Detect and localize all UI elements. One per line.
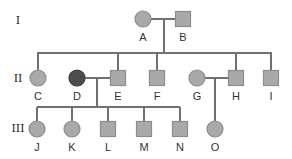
individual-label: I: [269, 90, 272, 102]
individual-label: E: [114, 90, 121, 102]
individual-label: N: [176, 141, 184, 153]
female-circle: [29, 121, 45, 137]
individual-label: A: [139, 31, 147, 43]
individual-I: I: [264, 71, 279, 103]
female-circle: [30, 70, 46, 86]
individuals: ABCDEFGHIJKLMNO: [29, 11, 279, 153]
male-square: [137, 122, 152, 137]
individual-L: L: [101, 122, 116, 154]
individual-label: J: [34, 141, 40, 153]
female-circle: [64, 121, 80, 137]
pedigree-canvas: IIIIII ABCDEFGHIJKLMNO: [0, 0, 292, 159]
male-square: [111, 71, 126, 86]
individual-A: A: [135, 11, 151, 43]
individual-label: K: [68, 141, 76, 153]
individual-M: M: [137, 122, 152, 154]
individual-D: D: [69, 70, 85, 102]
generation-labels: IIIIII: [11, 14, 24, 135]
individual-B: B: [176, 12, 191, 44]
individual-F: F: [150, 71, 165, 103]
individual-N: N: [173, 122, 188, 154]
male-square: [176, 12, 191, 27]
female-circle: [207, 121, 223, 137]
affected-female-circle: [69, 70, 85, 86]
individual-J: J: [29, 121, 45, 153]
female-circle: [135, 11, 151, 27]
male-square: [264, 71, 279, 86]
pedigree-diagram: IIIIII ABCDEFGHIJKLMNO: [0, 0, 292, 159]
individual-O: O: [207, 121, 223, 153]
individual-label: O: [211, 141, 220, 153]
individual-label: F: [154, 90, 161, 102]
male-square: [229, 71, 244, 86]
individual-H: H: [229, 71, 244, 103]
male-square: [101, 122, 116, 137]
generation-label: II: [14, 72, 23, 85]
individual-G: G: [189, 70, 205, 102]
individual-label: H: [232, 90, 240, 102]
individual-E: E: [111, 71, 126, 103]
individual-label: B: [179, 31, 186, 43]
individual-K: K: [64, 121, 80, 153]
individual-label: G: [193, 90, 202, 102]
individual-label: D: [73, 90, 81, 102]
individual-label: L: [105, 141, 111, 153]
individual-C: C: [30, 70, 46, 102]
generation-label: III: [11, 122, 24, 135]
male-square: [150, 71, 165, 86]
generation-label: I: [16, 14, 20, 27]
male-square: [173, 122, 188, 137]
female-circle: [189, 70, 205, 86]
individual-label: C: [34, 90, 42, 102]
individual-label: M: [139, 141, 148, 153]
